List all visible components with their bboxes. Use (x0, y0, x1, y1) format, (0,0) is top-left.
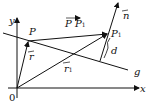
diagram: y x 0 P P1 P P1 r r1 n d g (0, 0, 147, 107)
label-d: d (111, 46, 117, 56)
label-n: n (123, 11, 129, 21)
label-p1: P1 (111, 29, 122, 39)
vector-pp1 (28, 34, 107, 41)
label-p1-sub: 1 (118, 31, 122, 38)
distance-brace (104, 38, 110, 58)
label-r: r (29, 52, 34, 62)
vector-r (17, 42, 28, 88)
label-pp1-sub: 1 (82, 21, 86, 28)
label-r1: r1 (64, 64, 73, 74)
label-origin: 0 (9, 93, 15, 103)
label-p1-text: P (111, 28, 118, 39)
label-y: y (9, 16, 15, 26)
label-r1-sub: 1 (69, 66, 73, 73)
label-g: g (134, 67, 140, 77)
label-pp1-text: P P (65, 18, 82, 29)
label-x: x (140, 84, 146, 94)
label-pp1: P P1 (65, 19, 85, 29)
label-p: P (29, 27, 36, 37)
